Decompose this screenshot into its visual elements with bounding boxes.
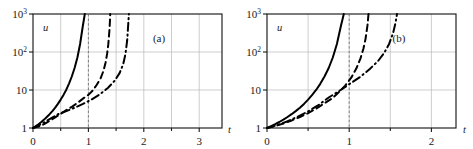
panel-a-xtick-3: 3: [196, 135, 202, 147]
panel-b-ylabel: u: [277, 22, 282, 33]
panel-a-tag: (a): [153, 32, 166, 45]
panel-a-ytick-1000: 103: [12, 7, 27, 20]
panel-b-xtick-0: 0: [264, 135, 270, 147]
panel-b-ticks: [263, 14, 431, 132]
panel-a-xtick-2: 2: [141, 135, 147, 147]
panel-b-ytick-10: 10: [250, 84, 262, 96]
panel-b-tag: (b): [393, 32, 406, 45]
panel-a-ticks: [29, 14, 199, 132]
plot-panel-b: 103 102 10 1 0 1 2 u t (b): [236, 0, 473, 149]
panel-a-curve-solid: [33, 14, 85, 128]
plot-panel-a: 103 102 10 1 0 1 2 3 u t (a): [0, 0, 237, 149]
panel-b-svg: 103 102 10 1 0 1 2 u t (b): [236, 0, 473, 149]
panel-a-ytick-1: 1: [22, 122, 28, 134]
panel-b-xtick-2: 2: [429, 135, 435, 147]
panel-b-xtick-1: 1: [346, 135, 352, 147]
panel-a-xtick-0: 0: [30, 135, 36, 147]
panel-a-ylabel: u: [43, 22, 48, 33]
panel-a-xtick-1: 1: [86, 135, 92, 147]
panel-a-xlabel: t: [228, 124, 232, 135]
panel-a-ytick-100: 102: [12, 45, 27, 58]
panel-b-ytick-1000: 103: [246, 7, 261, 20]
panel-b-xlabel: t: [463, 124, 467, 135]
panel-b-curve-dash-dot: [267, 14, 397, 128]
panel-a-svg: 103 102 10 1 0 1 2 3 u t (a): [0, 0, 237, 149]
panel-b-ytick-1: 1: [256, 122, 262, 134]
panel-a-horizontal-gridlines: [33, 52, 222, 90]
panel-a-ytick-10: 10: [16, 84, 28, 96]
panel-b-ytick-100: 102: [246, 45, 261, 58]
figure-blowup-curves: 103 102 10 1 0 1 2 3 u t (a): [0, 0, 473, 149]
